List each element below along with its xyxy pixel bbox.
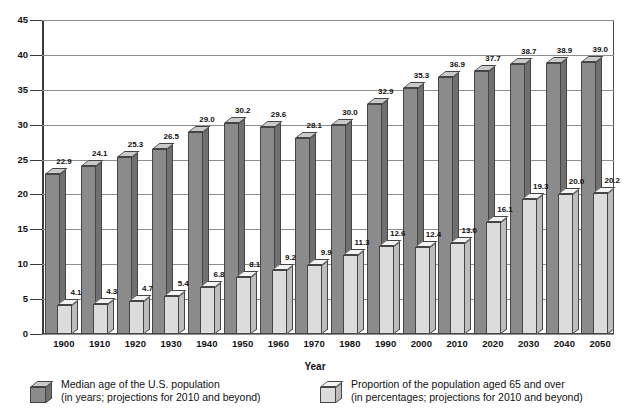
bar-side-face	[322, 260, 328, 334]
x-tick-label: 1980	[330, 339, 370, 349]
bar-value-label: 8.1	[242, 261, 268, 269]
bar-front-face	[558, 194, 573, 334]
y-tick-mark	[30, 194, 42, 195]
bar-value-label: 6.8	[206, 271, 232, 279]
bar-value-label: 35.3	[409, 72, 435, 80]
bar-proportion-65plus[interactable]	[415, 247, 430, 334]
legend-item-proportion-65plus: Proportion of the population aged 65 and…	[320, 378, 583, 404]
bar-value-label: 19.3	[528, 183, 554, 191]
bar-proportion-65plus[interactable]	[129, 301, 144, 334]
bar-proportion-65plus[interactable]	[522, 199, 537, 334]
chart-legend: Median age of the U.S. population (in ye…	[0, 374, 630, 416]
bar-value-label: 22.9	[51, 158, 77, 166]
bar-front-face	[200, 287, 215, 334]
bar-side-face	[608, 188, 614, 334]
bar-side-face	[144, 297, 150, 334]
bar-proportion-65plus[interactable]	[57, 305, 72, 334]
x-tick-label: 1930	[151, 339, 191, 349]
x-tick-label: 1950	[223, 339, 263, 349]
bar-proportion-65plus[interactable]	[164, 296, 179, 334]
bar-side-face	[430, 243, 436, 334]
bar-side-face	[537, 195, 543, 334]
bar-value-label: 38.7	[516, 48, 542, 56]
bar-value-label: 25.3	[123, 141, 149, 149]
bar-value-label: 36.9	[444, 61, 470, 69]
bar-value-label: 29.6	[266, 111, 292, 119]
y-tick-mark	[30, 264, 42, 265]
x-tick-label: 1920	[115, 339, 155, 349]
y-tick-mark	[30, 55, 42, 56]
bar-proportion-65plus[interactable]	[593, 193, 608, 334]
x-tick-label: 1910	[80, 339, 120, 349]
bar-proportion-65plus[interactable]	[272, 270, 287, 334]
bar-proportion-65plus[interactable]	[307, 265, 322, 334]
bar-value-label: 39.0	[587, 46, 613, 54]
bar-proportion-65plus[interactable]	[343, 255, 358, 334]
bar-side-face	[501, 217, 507, 334]
bar-proportion-65plus[interactable]	[200, 287, 215, 334]
bar-front-face	[164, 296, 179, 334]
bar-value-label: 30.0	[337, 109, 363, 117]
x-tick-label: 2000	[401, 339, 441, 349]
bar-front-face	[272, 270, 287, 334]
y-tick-label: 45	[2, 15, 28, 25]
bar-value-label: 38.9	[552, 47, 578, 55]
bar-group: 38.719.3	[507, 20, 543, 334]
bar-side-face	[287, 265, 293, 334]
dark-3d-cube-icon	[30, 381, 52, 403]
y-tick-label: 5	[2, 294, 28, 304]
bar-value-label: 16.1	[492, 206, 518, 214]
y-tick-label: 15	[2, 224, 28, 234]
bar-front-face	[379, 246, 394, 334]
bar-value-label: 12.4	[421, 231, 447, 239]
bar-proportion-65plus[interactable]	[379, 246, 394, 334]
bar-proportion-65plus[interactable]	[558, 194, 573, 334]
bar-value-label: 28.1	[301, 122, 327, 130]
bar-proportion-65plus[interactable]	[486, 222, 501, 334]
bar-proportion-65plus[interactable]	[93, 304, 108, 334]
legend-line-1: Proportion of the population aged 65 and…	[351, 378, 583, 391]
x-tick-label: 1960	[258, 339, 298, 349]
legend-line-2: (in percentages; projections for 2010 an…	[351, 391, 583, 404]
chart-area: 051015202530354045 22.94.124.14.325.34.7…	[0, 0, 630, 360]
bar-front-face	[307, 265, 322, 334]
bar-front-face	[343, 255, 358, 334]
bar-group: 29.69.2	[257, 20, 293, 334]
bar-value-label: 29.0	[194, 116, 220, 124]
x-tick-label: 1970	[294, 339, 334, 349]
bar-value-label: 20.2	[599, 177, 625, 185]
bar-group: 38.920.0	[543, 20, 579, 334]
bar-value-label: 9.9	[313, 249, 339, 257]
bar-front-face	[522, 199, 537, 334]
bars-layer: 22.94.124.14.325.34.726.55.429.06.830.28…	[42, 20, 614, 334]
x-tick-label: 2040	[544, 339, 584, 349]
bar-side-face	[179, 292, 185, 334]
bar-value-label: 4.7	[135, 285, 161, 293]
bar-side-face	[358, 250, 364, 334]
bar-group: 36.913.0	[435, 20, 471, 334]
bar-proportion-65plus[interactable]	[450, 243, 465, 334]
bar-side-face	[215, 282, 221, 334]
bar-value-label: 13.0	[456, 227, 482, 235]
y-tick-mark	[30, 20, 42, 21]
y-tick-mark	[30, 334, 42, 335]
bar-front-face	[415, 247, 430, 334]
bar-value-label: 26.5	[158, 133, 184, 141]
x-tick-label: 2030	[509, 339, 549, 349]
bar-value-label: 37.7	[480, 55, 506, 63]
bar-value-label: 9.2	[278, 254, 304, 262]
bar-front-face	[450, 243, 465, 334]
legend-label-median-age: Median age of the U.S. population (in ye…	[61, 378, 261, 404]
light-3d-cube-icon	[320, 381, 342, 403]
bar-group: 32.912.6	[364, 20, 400, 334]
bar-group: 30.28.1	[221, 20, 257, 334]
bar-side-face	[465, 239, 471, 334]
bar-group: 35.312.4	[400, 20, 436, 334]
legend-line-1: Median age of the U.S. population	[61, 378, 261, 391]
y-tick-label: 20	[2, 189, 28, 199]
bar-front-face	[93, 304, 108, 334]
bar-value-label: 30.2	[230, 107, 256, 115]
bar-group: 22.94.1	[42, 20, 78, 334]
bar-value-label: 5.4	[170, 280, 196, 288]
bar-proportion-65plus[interactable]	[236, 277, 251, 334]
